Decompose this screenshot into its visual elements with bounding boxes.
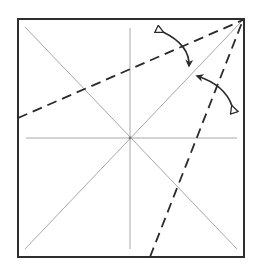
center-point <box>129 137 132 140</box>
origami-diagram <box>0 0 262 278</box>
